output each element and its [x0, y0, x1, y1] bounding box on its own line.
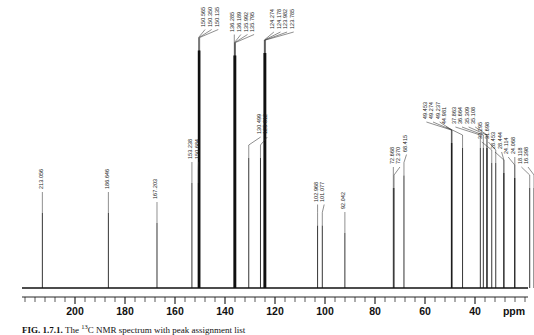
- axis-tick-label: 180: [105, 305, 145, 317]
- axis-tick-label: 120: [255, 305, 295, 317]
- axis-tick-label: 160: [155, 305, 195, 317]
- caption-label: FIG. 1.7.1.: [22, 325, 63, 335]
- peak-label: 68.415: [369, 134, 409, 151]
- axis-tick-label: 200: [55, 305, 95, 317]
- axis-tick-label: 60: [405, 305, 445, 317]
- peak-leader-line: [394, 167, 400, 188]
- peak-leader-line: [521, 167, 529, 188]
- peak-leader-line: [404, 155, 407, 176]
- figure-caption: FIG. 1.7.1. The 13C NMR spectrum with pe…: [22, 323, 245, 335]
- peak-label: 150.684: [161, 139, 201, 159]
- peak-label: 186.646: [71, 169, 111, 189]
- peak-label: 92.042: [307, 192, 347, 209]
- peak-leader-line: [199, 30, 212, 51]
- axis-tick-label: 40: [455, 305, 495, 317]
- peak-trace-group: [42, 51, 534, 289]
- caption-text: The 13C NMR spectrum with peak assignmen…: [65, 325, 245, 335]
- peak-leader-line: [249, 137, 261, 158]
- peak-label: 16.398: [490, 147, 530, 164]
- peak-label: 125.812: [229, 114, 269, 134]
- peak-label: 123.785: [256, 9, 296, 29]
- peak-leader-line: [528, 167, 534, 188]
- peak-label: 167.203: [119, 179, 159, 199]
- peak-label: 213.056: [5, 169, 45, 189]
- axis-tick-label: 80: [355, 305, 395, 317]
- axis-ticks: [25, 297, 525, 304]
- peak-leader-line: [235, 35, 247, 56]
- axis-unit-label: ppm: [496, 305, 532, 317]
- axis-tick-label: 140: [205, 305, 245, 317]
- peak-leader-line: [265, 32, 287, 53]
- axis-tick-label: 100: [305, 305, 345, 317]
- x-axis: [22, 297, 528, 304]
